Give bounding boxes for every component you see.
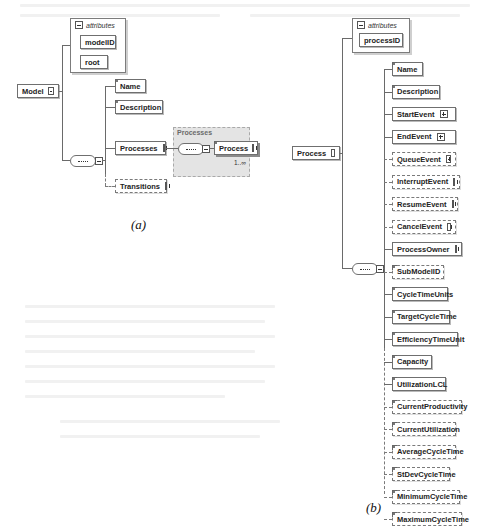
attributes-label: attributes	[368, 22, 397, 29]
element-name[interactable]: Name	[392, 62, 423, 76]
element-efficiencytimeunit[interactable]: EfficiencyTimeUnit	[392, 332, 458, 346]
attribute-processID[interactable]: processID	[359, 33, 403, 47]
element-process[interactable]: Process	[214, 141, 258, 155]
caption-a: (a)	[131, 217, 146, 233]
expand-icon[interactable]	[163, 144, 165, 152]
element-process-root[interactable]: Process	[292, 146, 340, 160]
simple-type-icon	[392, 490, 397, 495]
simple-type-icon	[392, 355, 397, 360]
collapse-icon[interactable]	[75, 21, 83, 29]
element-processes[interactable]: Processes	[115, 141, 166, 155]
sequence-compositor[interactable]	[178, 143, 204, 155]
attribute-modelID[interactable]: modelID	[80, 35, 116, 49]
element-processowner[interactable]: ProcessOwner	[392, 242, 462, 256]
expand-icon[interactable]	[446, 155, 451, 163]
simple-type-icon	[392, 62, 397, 67]
simple-type-icon	[392, 512, 397, 517]
element-maximumcycletime[interactable]: MaximumCycleTime	[392, 512, 462, 526]
expand-icon[interactable]	[455, 245, 457, 253]
sequence-compositor[interactable]	[70, 155, 96, 167]
element-currentutilization[interactable]: CurrentUtilization	[392, 422, 456, 436]
attributes-group: attributes modelID root	[70, 18, 126, 73]
element-utilizationlcl[interactable]: UtilizationLCL	[392, 377, 446, 391]
simple-type-icon	[392, 400, 397, 405]
simple-type-icon	[392, 467, 397, 472]
collapse-icon[interactable]	[48, 87, 54, 95]
element-stdevcycletime[interactable]: StDevCycleTime	[392, 467, 450, 481]
attributes-group: attributes processID	[352, 18, 410, 53]
element-model[interactable]: Model	[17, 84, 59, 98]
element-queueevent[interactable]: QueueEvent	[392, 152, 456, 166]
group-label: Processes	[177, 129, 212, 136]
element-cycletimeunits[interactable]: CycleTimeUnits	[392, 287, 448, 301]
expand-icon[interactable]	[437, 133, 445, 141]
simple-type-icon	[115, 100, 120, 105]
element-startevent[interactable]: StartEvent	[392, 107, 456, 121]
simple-type-icon	[392, 377, 397, 382]
simple-type-icon	[392, 332, 397, 337]
collapse-icon[interactable]	[357, 21, 365, 29]
expand-icon[interactable]	[453, 178, 455, 186]
simple-type-icon	[392, 265, 397, 270]
element-interruptevent[interactable]: InterruptEvent	[392, 175, 460, 189]
simple-type-icon	[392, 445, 397, 450]
expand-icon[interactable]	[440, 110, 448, 118]
collapse-icon[interactable]	[202, 145, 210, 153]
simple-type-icon	[214, 141, 219, 146]
element-minimumcycletime[interactable]: MinimumCycleTime	[392, 490, 460, 504]
simple-type-icon	[392, 85, 397, 90]
caption-b: (b)	[366, 500, 381, 516]
element-submodelid[interactable]: SubModelID	[392, 265, 444, 279]
simple-type-icon	[115, 79, 120, 84]
element-capacity[interactable]: Capacity	[392, 355, 432, 369]
collapse-icon[interactable]	[376, 265, 384, 273]
expand-icon[interactable]	[252, 144, 254, 152]
element-endevent[interactable]: EndEvent	[392, 130, 456, 144]
collapse-icon[interactable]	[331, 149, 335, 157]
element-resumeevent[interactable]: ResumeEvent	[392, 197, 458, 211]
simple-type-icon	[392, 287, 397, 292]
element-cancelevent[interactable]: CancelEvent	[392, 220, 456, 234]
simple-type-icon	[392, 422, 397, 427]
attribute-root[interactable]: root	[80, 55, 108, 69]
simple-type-icon	[392, 310, 397, 315]
element-name[interactable]: Name	[115, 79, 146, 93]
collapse-icon[interactable]	[95, 157, 103, 165]
element-currentproductivity[interactable]: CurrentProductivity	[392, 400, 462, 414]
element-averagecycletime[interactable]: AverageCycleTime	[392, 445, 456, 459]
expand-icon[interactable]	[447, 223, 451, 231]
element-description[interactable]: Description	[392, 85, 440, 99]
element-description[interactable]: Description	[115, 100, 163, 114]
sequence-compositor[interactable]	[352, 263, 378, 275]
element-transitions[interactable]: Transitions	[115, 179, 167, 193]
expand-icon[interactable]	[165, 182, 167, 190]
expand-icon[interactable]	[452, 200, 454, 208]
attributes-label: attributes	[86, 22, 115, 29]
element-targetcycletime[interactable]: TargetCycleTime	[392, 310, 450, 324]
cardinality-label: 1..∞	[234, 159, 246, 166]
